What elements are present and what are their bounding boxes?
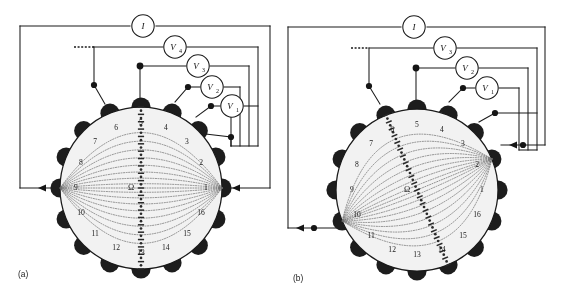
junction-node xyxy=(311,225,317,231)
panel-caption-a: (a) xyxy=(18,269,28,279)
electrode-label-12: 12 xyxy=(388,245,396,254)
junction-node xyxy=(91,82,97,88)
junction-node xyxy=(460,85,466,91)
electrode-label-6: 6 xyxy=(390,125,394,134)
electrode-label-2: 2 xyxy=(199,158,203,167)
electrode-label-1: 1 xyxy=(204,183,208,192)
voltmeter-1-sub-a: 1 xyxy=(236,107,239,113)
junction-node xyxy=(137,63,144,70)
electrode-label-8: 8 xyxy=(79,158,83,167)
electrode-label-4: 4 xyxy=(164,123,168,132)
voltmeter-4-a[interactable]: V 4 xyxy=(164,36,186,58)
voltmeter-2-a[interactable]: V 2 xyxy=(201,76,223,98)
voltmeter-3-sub-b: 3 xyxy=(449,49,452,55)
electrode-label-1: 1 xyxy=(480,185,484,194)
center-label: Ω xyxy=(404,185,410,194)
electrode-label-15: 15 xyxy=(459,231,467,240)
junction-node xyxy=(208,103,214,109)
electrode-label-7: 7 xyxy=(369,139,373,148)
electrode-label-11: 11 xyxy=(91,229,99,238)
electrode-label-9: 9 xyxy=(350,185,354,194)
electrode-label-12: 12 xyxy=(112,243,120,252)
center-label: Ω xyxy=(128,183,134,192)
electrode-label-13: 13 xyxy=(413,250,421,259)
electrode-label-6: 6 xyxy=(114,123,118,132)
electrode-label-3: 3 xyxy=(185,137,189,146)
panel-caption-b: (b) xyxy=(293,273,303,283)
junction-node xyxy=(413,65,420,72)
electrode-label-2: 2 xyxy=(475,160,479,169)
electrode-label-16: 16 xyxy=(197,208,205,217)
electrode-label-5: 5 xyxy=(415,120,419,129)
tank-b: 12345678910111213141516Ω xyxy=(326,99,507,280)
junction-node xyxy=(366,83,372,89)
electrode-label-9: 9 xyxy=(74,183,78,192)
voltmeter-1-a[interactable]: V 1 xyxy=(221,95,243,117)
voltmeter-2-b[interactable]: V 2 xyxy=(456,57,478,79)
voltmeter-2-sub-a: 2 xyxy=(216,88,219,94)
panel-a-diagram: I V 4 V 3 V xyxy=(0,0,283,303)
current-arrow-sink-a xyxy=(38,185,46,192)
junction-node xyxy=(520,142,526,148)
electrode-label-5: 5 xyxy=(139,118,143,127)
ammeter-a[interactable]: I xyxy=(132,15,154,37)
voltmeter-bus-b xyxy=(519,48,537,150)
voltmeter-3-b[interactable]: V 3 xyxy=(434,37,456,59)
panel-a: I V 4 V 3 V xyxy=(0,0,283,303)
voltmeter-1-b[interactable]: V 1 xyxy=(476,77,498,99)
electrode-label-4: 4 xyxy=(440,125,444,134)
ammeter-b[interactable]: I xyxy=(403,16,425,38)
electrode-label-14: 14 xyxy=(162,243,170,252)
current-arrow-source-a xyxy=(232,185,240,192)
voltmeter-3-a[interactable]: V 3 xyxy=(187,55,209,77)
junction-node xyxy=(492,110,498,116)
voltmeter-4-sub-a: 4 xyxy=(179,48,182,54)
panel-b-diagram: I V 3 V 2 xyxy=(283,0,566,303)
voltmeter-3-sub-a: 3 xyxy=(202,67,205,73)
voltmeter-2-sub-b: 2 xyxy=(471,69,474,75)
electrode-label-7: 7 xyxy=(93,137,97,146)
electrode-label-15: 15 xyxy=(183,229,191,238)
electrode-label-3: 3 xyxy=(461,139,465,148)
panel-b: I V 3 V 2 xyxy=(283,0,566,303)
electrode-label-16: 16 xyxy=(473,210,481,219)
junction-node xyxy=(185,84,191,90)
electrode-label-11: 11 xyxy=(367,231,375,240)
junction-node xyxy=(228,134,234,140)
tank-a: 12345678910111213141516Ω xyxy=(50,97,231,278)
electrode-label-14: 14 xyxy=(438,245,446,254)
electrode-label-10: 10 xyxy=(77,208,85,217)
electrode-label-8: 8 xyxy=(355,160,359,169)
voltmeter-1-sub-b: 1 xyxy=(491,89,494,95)
electrode-label-10: 10 xyxy=(353,210,361,219)
electrode-label-13: 13 xyxy=(137,248,145,257)
